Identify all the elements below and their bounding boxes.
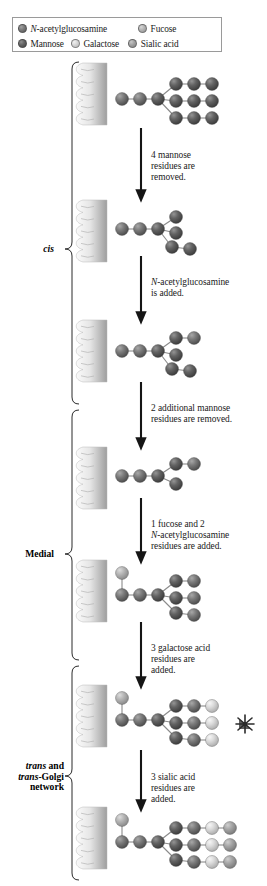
sugar-node-galactose: [206, 717, 219, 730]
glycosylation-diagram: N-acetylglucosamine Fucose Mannose Galac…: [0, 0, 267, 886]
glycan-structure-7: [116, 814, 237, 869]
sugar-node-glcnac: [116, 836, 129, 849]
membrane-lobes: [76, 560, 107, 622]
zone-label-medial: Medial: [2, 549, 54, 560]
golgi-membrane-2: [76, 200, 107, 262]
sugar-node-mannose: [152, 589, 165, 602]
glycan-structure-3: [116, 332, 201, 378]
golgi-membrane-5: [76, 560, 107, 622]
sugar-node-mannose: [170, 332, 183, 345]
zone-label-trans-line-3: network: [2, 782, 64, 793]
step-2-line-1: N-acetylglucosamine: [151, 277, 267, 288]
sugar-node-glcnac: [134, 589, 147, 602]
sugar-node-mannose: [188, 112, 201, 125]
step-1-line-2: residues are: [151, 161, 261, 172]
step-3-line-2: residues are removed.: [151, 414, 267, 425]
sugar-node-mannose: [170, 227, 183, 240]
sugar-node-sialic: [224, 822, 237, 835]
sugar-node-glcnac: [188, 332, 201, 345]
step-4-line-3: residues are added.: [151, 541, 267, 552]
golgi-membrane-3: [76, 320, 107, 382]
step-6-line-2: residues are: [151, 783, 261, 794]
sugar-node-mannose: [170, 78, 183, 91]
step-1-line-3: removed.: [151, 172, 261, 183]
decorative-glyph-icon: [236, 715, 254, 733]
sugar-node-glcnac: [134, 345, 147, 358]
sugar-node-mannose: [188, 95, 201, 108]
glycan-structure-4: [116, 458, 201, 491]
sugar-node-mannose: [152, 93, 165, 106]
sugar-node-mannose: [206, 112, 219, 125]
step-text-4: 1 fucose and 2 N-acetylglucosamine resid…: [151, 519, 267, 552]
sugar-node-glcnac: [188, 458, 201, 471]
sugar-node-mannose: [166, 241, 179, 254]
step-2-line-2: is added.: [151, 288, 267, 299]
sugar-node-glcnac: [134, 836, 147, 849]
diagram-canvas: [0, 0, 267, 886]
sugar-node-glcnac: [188, 822, 201, 835]
membrane-lobes: [76, 685, 107, 747]
membrane-lobes: [76, 807, 107, 869]
sugar-node-sialic: [224, 856, 237, 869]
brackets-layer: [65, 62, 79, 880]
step-3-line-1: 2 additional mannose: [151, 403, 267, 414]
step-5-line-2: residues are: [151, 654, 261, 665]
sugar-node-mannose: [170, 575, 183, 588]
step-4-line-1: 1 fucose and 2: [151, 519, 267, 530]
sugar-node-mannose: [166, 363, 179, 376]
sugar-node-galactose: [206, 734, 219, 747]
sugar-node-mannose: [184, 365, 197, 378]
sugar-node-glcnac: [134, 93, 147, 106]
sugar-node-mannose: [152, 470, 165, 483]
golgi-membrane-4: [76, 447, 107, 509]
step-4-line-2-rest: -acetylglucosamine: [157, 530, 229, 540]
sugar-node-mannose: [152, 714, 165, 727]
sugar-node-glcnac: [116, 589, 129, 602]
sugar-node-galactose: [206, 822, 219, 835]
step-text-1: 4 mannose residues are removed.: [151, 150, 261, 183]
golgi-membrane-1: [76, 63, 107, 125]
sugar-node-mannose: [170, 112, 183, 125]
step-5-line-1: 3 galactose acid: [151, 643, 261, 654]
step-2-line-1-rest: -acetylglucosamine: [157, 277, 229, 287]
sugar-node-glcnac: [188, 700, 201, 713]
sugar-node-glcnac: [188, 856, 201, 869]
glycan-structure-6: [116, 692, 219, 747]
glycan-structure-2: [116, 211, 197, 256]
sugar-node-mannose: [184, 243, 197, 256]
glycan-structure-1: [116, 78, 219, 125]
step-text-3: 2 additional mannose residues are remove…: [151, 403, 267, 425]
step-text-2: N-acetylglucosamine is added.: [151, 277, 267, 299]
sugar-node-mannose: [152, 836, 165, 849]
sugar-node-mannose: [170, 700, 183, 713]
golgi-membrane-6: [76, 685, 107, 747]
sugar-node-glcnac: [134, 223, 147, 236]
sugar-node-galactose: [206, 856, 219, 869]
zone-label-trans: trans and trans-Golgi network: [2, 761, 64, 793]
glycan-structure-5: [116, 567, 201, 622]
membranes-layer: [76, 63, 107, 869]
sugar-node-mannose: [206, 95, 219, 108]
sugar-node-glcnac: [188, 734, 201, 747]
sugar-node-glcnac: [134, 470, 147, 483]
sugar-node-mannose: [170, 607, 183, 620]
sugar-node-galactose: [206, 839, 219, 852]
sugar-node-mannose: [170, 822, 183, 835]
sugar-node-glcnac: [116, 714, 129, 727]
sugar-node-glcnac: [188, 839, 201, 852]
sugar-node-mannose: [170, 732, 183, 745]
zone-label-cis-text: cis: [43, 243, 54, 254]
sugar-node-mannose: [206, 78, 219, 91]
zone-label-cis: cis: [2, 244, 54, 255]
membrane-lobes: [76, 63, 107, 125]
sugar-node-glcnac: [188, 575, 201, 588]
step-6-line-1: 3 sialic acid: [151, 772, 261, 783]
sugar-node-glcnac: [188, 609, 201, 622]
zone-bracket-medial: [65, 410, 79, 660]
sugar-node-mannose: [170, 95, 183, 108]
sugar-node-sialic: [224, 839, 237, 852]
zone-label-medial-text: Medial: [25, 548, 54, 559]
sugar-node-mannose: [170, 478, 183, 491]
zone-trans-italic-2: trans: [18, 771, 38, 782]
sugar-node-fucose: [116, 814, 129, 827]
